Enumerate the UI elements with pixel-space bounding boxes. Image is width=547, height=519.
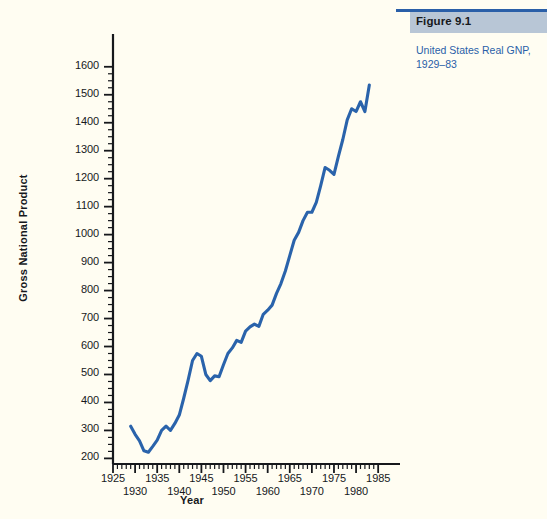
y-tick-label: 400: [57, 394, 99, 406]
y-tick-label: 600: [57, 339, 99, 351]
x-tick-label: 1975: [312, 472, 356, 484]
y-tick-label: 1000: [57, 227, 99, 239]
x-tick-label: 1935: [135, 472, 179, 484]
y-tick-label: 300: [57, 422, 99, 434]
y-tick-label: 500: [57, 366, 99, 378]
y-tick-label: 1600: [57, 59, 99, 71]
y-tick-label: 200: [57, 450, 99, 462]
x-tick-label: 1985: [356, 472, 400, 484]
y-tick-label: 700: [57, 311, 99, 323]
x-axis-title: Year: [180, 494, 204, 506]
x-tick-label: 1980: [334, 485, 378, 497]
x-tick-label: 1945: [179, 472, 223, 484]
chart-container: 2003004005006007008009001000110012001300…: [0, 0, 440, 519]
page-canvas: Figure 9.1 United States Real GNP, 1929–…: [0, 0, 547, 519]
x-tick-label: 1970: [290, 485, 334, 497]
y-tick-label: 800: [57, 283, 99, 295]
x-tick-label: 1960: [246, 485, 290, 497]
y-tick-label: 1300: [57, 143, 99, 155]
x-tick-label: 1965: [268, 472, 312, 484]
x-tick-label: 1955: [224, 472, 268, 484]
chart-series-group: [131, 85, 370, 452]
x-tick-label: 1925: [91, 472, 135, 484]
chart-axes: [113, 34, 400, 464]
chart-y-ticks: [104, 67, 113, 459]
x-tick-label: 1930: [113, 485, 157, 497]
y-tick-label: 1500: [57, 87, 99, 99]
y-tick-label: 1100: [57, 199, 99, 211]
series-line-real-gnp: [131, 85, 370, 452]
y-tick-label: 1400: [57, 115, 99, 127]
y-axis-title: Gross National Product: [17, 153, 29, 323]
y-tick-label: 900: [57, 255, 99, 267]
x-tick-label: 1950: [201, 485, 245, 497]
y-tick-label: 1200: [57, 171, 99, 183]
